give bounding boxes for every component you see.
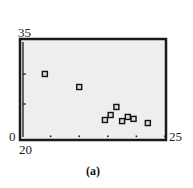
data-point <box>145 121 150 126</box>
x-max-label: 25 <box>169 130 182 143</box>
data-point <box>131 116 136 121</box>
y-max-label: 35 <box>18 26 31 39</box>
y-min-label: 0 <box>9 130 16 143</box>
data-point <box>114 104 119 109</box>
data-point <box>42 71 47 76</box>
figure-caption: (a) <box>86 165 100 177</box>
plot-frame <box>20 39 166 140</box>
data-point <box>125 114 130 119</box>
data-point <box>108 112 113 117</box>
data-point <box>102 117 107 122</box>
data-point <box>120 119 125 124</box>
data-point <box>77 85 82 90</box>
x-min-label: 20 <box>19 143 32 156</box>
